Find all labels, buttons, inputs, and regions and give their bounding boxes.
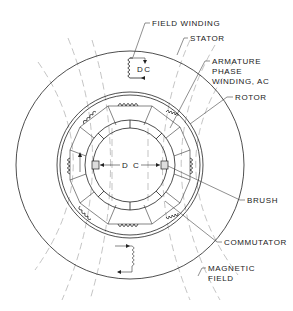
label-armature-1: ARMATURE — [212, 57, 261, 66]
dc-machine-diagram: D C DC FIELD WINDING STATOR ARMATURE PHA… — [0, 0, 293, 311]
brush-dc-label: D C — [122, 161, 140, 170]
label-brush: BRUSH — [247, 196, 278, 205]
field-winding-bottom — [115, 244, 134, 274]
rotation-arrow — [78, 152, 82, 172]
label-magnetic-2: FIELD — [208, 274, 234, 283]
brush-right — [161, 161, 168, 169]
label-rotor: ROTOR — [235, 93, 267, 102]
label-commutator: COMMUTATOR — [224, 238, 287, 247]
field-dc-label: DC — [137, 65, 152, 74]
label-field-winding: FIELD WINDING — [152, 19, 220, 28]
label-armature-2: PHASE — [212, 67, 242, 76]
brush-left — [92, 161, 99, 169]
label-magnetic-1: MAGNETIC — [208, 264, 255, 273]
label-stator: STATOR — [190, 34, 225, 43]
label-armature-3: WINDING, AC — [212, 77, 269, 86]
